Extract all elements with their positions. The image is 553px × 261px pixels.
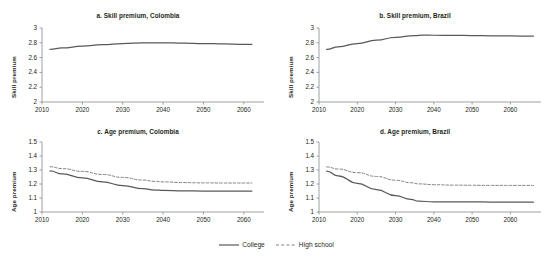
- series-line-college: [327, 171, 534, 202]
- legend-swatch-dashed-icon: [276, 243, 296, 247]
- y-tick-label: 1.5: [16, 138, 37, 145]
- y-tick-label: 2.6: [16, 54, 37, 61]
- legend-entry-college: College: [219, 241, 265, 248]
- y-tick-label: 3: [293, 24, 314, 31]
- panel-d-plot: 11.11.21.31.41.5201020202030204020502060: [319, 142, 541, 212]
- panel-a-axes-and-lines: [42, 28, 264, 102]
- y-tick-label: 1.3: [293, 166, 314, 173]
- x-tick-label: 2030: [383, 216, 409, 223]
- x-tick-label: 2060: [497, 216, 523, 223]
- x-tick-label: 2030: [110, 216, 136, 223]
- panel-d-ylabel: Age premium: [287, 171, 294, 212]
- x-tick-label: 2020: [69, 106, 95, 113]
- y-tick-label: 1.2: [16, 180, 37, 187]
- legend-label-college: College: [242, 241, 265, 248]
- x-tick-label: 2040: [421, 106, 447, 113]
- y-tick-label: 1.2: [293, 180, 314, 187]
- panel-d-title: d. Age premium, Brazil: [277, 128, 553, 135]
- legend-label-high-school: High school: [299, 241, 334, 248]
- x-tick-label: 2050: [459, 216, 485, 223]
- x-tick-label: 2030: [110, 106, 136, 113]
- panel-b-axes-and-lines: [319, 28, 541, 102]
- x-tick-label: 2020: [69, 216, 95, 223]
- x-tick-label: 2050: [459, 106, 485, 113]
- panel-c: c. Age premium, Colombia Age premium 11.…: [0, 128, 276, 236]
- panel-a-plot: 22.22.42.62.83201020202030204020502060: [42, 28, 264, 102]
- panel-d-axes-and-lines: [319, 142, 541, 212]
- x-tick-label: 2040: [421, 216, 447, 223]
- y-tick-label: 3: [16, 24, 37, 31]
- x-tick-label: 2010: [306, 106, 332, 113]
- x-tick-label: 2020: [344, 216, 370, 223]
- x-tick-label: 2040: [150, 106, 176, 113]
- panel-c-ylabel: Age premium: [10, 171, 17, 212]
- y-tick-label: 2: [16, 98, 37, 105]
- x-tick-label: 2060: [497, 106, 523, 113]
- y-tick-label: 2.2: [16, 83, 37, 90]
- figure-root: a. Skill premium, Colombia Skill premium…: [0, 0, 553, 261]
- x-tick-label: 2010: [29, 216, 55, 223]
- x-tick-label: 2040: [150, 216, 176, 223]
- x-tick-label: 2010: [29, 106, 55, 113]
- series-line-college: [50, 171, 252, 191]
- y-tick-label: 1.1: [293, 194, 314, 201]
- y-tick-label: 2: [293, 98, 314, 105]
- figure-supertitle: [0, 0, 553, 5]
- y-tick-label: 2.2: [293, 83, 314, 90]
- y-tick-label: 2.8: [16, 39, 37, 46]
- series-line-high-school: [50, 167, 252, 183]
- figure-legend: College High school: [0, 241, 553, 248]
- x-tick-label: 2010: [306, 216, 332, 223]
- panel-d: d. Age premium, Brazil Age premium 11.11…: [277, 128, 553, 236]
- panel-b-plot: 22.22.42.62.83201020202030204020502060: [319, 28, 541, 102]
- panel-c-axes-and-lines: [42, 142, 264, 212]
- x-tick-label: 2050: [190, 106, 216, 113]
- y-tick-label: 1.4: [16, 152, 37, 159]
- y-tick-label: 1: [16, 208, 37, 215]
- series-line-college: [50, 43, 252, 50]
- panel-a-ylabel: Skill premium: [10, 56, 17, 98]
- panel-b: b. Skill premium, Brazil Skill premium 2…: [277, 12, 553, 125]
- y-tick-label: 2.4: [293, 68, 314, 75]
- y-tick-label: 1: [293, 208, 314, 215]
- y-tick-label: 2.6: [293, 54, 314, 61]
- x-tick-label: 2030: [383, 106, 409, 113]
- x-tick-label: 2060: [231, 216, 257, 223]
- panel-c-plot: 11.11.21.31.41.5201020202030204020502060: [42, 142, 264, 212]
- y-tick-label: 2.8: [293, 39, 314, 46]
- panel-a: a. Skill premium, Colombia Skill premium…: [0, 12, 276, 125]
- panel-c-title: c. Age premium, Colombia: [0, 128, 276, 135]
- panel-a-title: a. Skill premium, Colombia: [0, 12, 276, 19]
- y-tick-label: 1.4: [293, 152, 314, 159]
- series-line-college: [327, 35, 534, 49]
- y-tick-label: 1.3: [16, 166, 37, 173]
- x-tick-label: 2020: [344, 106, 370, 113]
- series-line-high-school: [327, 167, 534, 185]
- legend-entry-high-school: High school: [276, 241, 334, 248]
- x-tick-label: 2060: [231, 106, 257, 113]
- legend-swatch-solid-icon: [219, 243, 239, 247]
- y-tick-label: 1.5: [293, 138, 314, 145]
- y-tick-label: 1.1: [16, 194, 37, 201]
- panel-b-ylabel: Skill premium: [287, 56, 294, 98]
- y-tick-label: 2.4: [16, 68, 37, 75]
- panel-b-title: b. Skill premium, Brazil: [277, 12, 553, 19]
- x-tick-label: 2050: [190, 216, 216, 223]
